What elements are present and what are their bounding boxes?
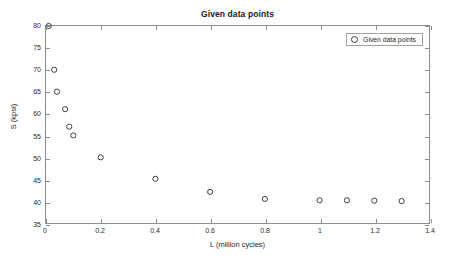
y-axis-tick-label: 50 [0,154,41,161]
data-point-marker [262,196,267,201]
data-point-marker [344,198,349,203]
y-axis-tick-right [425,26,429,27]
x-axis-tick-top [156,26,157,30]
page-title: Given data points [45,9,430,19]
y-axis-tick-label: 45 [0,176,41,183]
y-axis-tick [46,181,50,182]
y-axis-tick-right [425,225,429,226]
y-axis-tick-right [425,70,429,71]
data-point-marker [153,176,158,181]
x-axis-tick-label: 1.4 [425,227,435,234]
y-axis-tick [46,114,50,115]
x-axis-tick [431,219,432,223]
x-axis-tick-label: 0.8 [260,227,270,234]
data-point-marker [98,155,103,160]
data-point-marker [372,198,377,203]
x-axis-tick-top [321,26,322,30]
y-axis-tick-right [425,137,429,138]
chart-legend[interactable]: Given data points [346,33,423,46]
data-point-marker [52,67,57,72]
x-axis-label: L (million cycles) [45,240,430,249]
legend-entry-label: Given data points [363,36,416,43]
x-axis-tick [101,219,102,223]
x-axis-tick-top [266,26,267,30]
y-axis-tick-label: 70 [0,66,41,73]
y-axis-tick [46,48,50,49]
plot-area: Given data points [45,25,430,224]
data-point-marker [317,198,322,203]
x-axis-tick-label: 0 [43,227,47,234]
y-axis-tick-right [425,48,429,49]
scatter-data-layer [46,26,429,223]
y-axis-tick-right [425,159,429,160]
x-axis-tick-label: 1 [318,227,322,234]
y-axis-tick-label: 75 [0,44,41,51]
data-point-marker [54,89,59,94]
figure-canvas: Given data points Given data points L (m… [0,0,458,263]
x-axis-tick [46,219,47,223]
y-axis-tick-label: 55 [0,132,41,139]
x-axis-tick [376,219,377,223]
y-axis-tick [46,26,50,27]
x-axis-tick-top [376,26,377,30]
data-point-marker [399,199,404,204]
y-axis-tick [46,203,50,204]
x-axis-tick [211,219,212,223]
y-axis-tick-label: 65 [0,88,41,95]
y-axis-tick-right [425,92,429,93]
x-axis-tick-top [211,26,212,30]
circle-open-marker-icon [351,36,358,43]
x-axis-tick [156,219,157,223]
x-axis-tick-top [101,26,102,30]
data-point-marker [208,189,213,194]
y-axis-tick [46,70,50,71]
x-axis-tick-label: 0.2 [95,227,105,234]
data-point-marker [63,107,68,112]
data-point-marker [71,133,76,138]
y-axis-tick-label: 80 [0,22,41,29]
y-axis-tick [46,137,50,138]
y-axis-tick [46,225,50,226]
x-axis-tick-top [431,26,432,30]
x-axis-tick [321,219,322,223]
y-axis-tick-right [425,114,429,115]
y-axis-tick-right [425,203,429,204]
x-axis-tick [266,219,267,223]
y-axis-tick [46,92,50,93]
y-axis-tick-right [425,181,429,182]
x-axis-tick-label: 0.6 [205,227,215,234]
y-axis-tick [46,159,50,160]
x-axis-tick-label: 0.4 [150,227,160,234]
y-axis-tick-label: 60 [0,110,41,117]
x-axis-tick-label: 1.2 [370,227,380,234]
y-axis-tick-label: 40 [0,198,41,205]
y-axis-tick-label: 35 [0,221,41,228]
data-point-marker [67,124,72,129]
